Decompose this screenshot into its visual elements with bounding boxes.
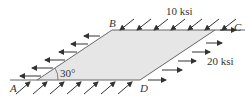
vertex-label-b: B <box>109 17 116 29</box>
top-face-arrows <box>120 19 236 30</box>
bottom-face-arrows <box>16 82 132 94</box>
normal-stress-label: 20 ksi <box>207 55 234 67</box>
vertex-label-c: C <box>234 21 242 33</box>
vertex-label-a: A <box>9 82 17 94</box>
angle-label: 30° <box>60 67 75 79</box>
shear-stress-label: 10 ksi <box>166 5 193 17</box>
vertex-label-d: D <box>139 82 148 94</box>
stress-element-diagram: A B C D 30° 10 ksi 20 ksi <box>0 0 252 99</box>
